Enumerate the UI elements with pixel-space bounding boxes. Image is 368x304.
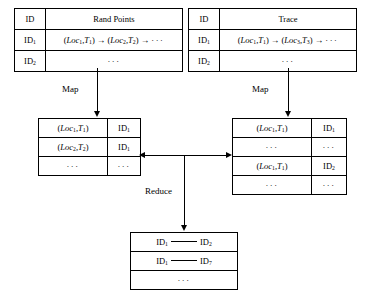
map-right-arrowhead xyxy=(285,111,291,117)
cell-value-ellipsis: ··· xyxy=(108,157,141,176)
cell-sequence-ellipsis: ··· xyxy=(46,51,183,72)
header-cell-id: ID xyxy=(189,9,220,30)
cell-value-id2: ID2 xyxy=(312,157,347,176)
cell-key-ellipsis-b: ··· xyxy=(233,176,312,195)
pair-connector xyxy=(171,260,197,261)
table-row: ··· xyxy=(131,271,238,290)
cell-id-2: ID2 xyxy=(189,51,220,72)
edge-label-map-left: Map xyxy=(62,84,79,94)
header-cell-id: ID xyxy=(15,9,46,30)
table-row: ID1 (Loc1,T1) → (Loc3,T3) → ··· xyxy=(189,30,357,51)
cell-id-1: ID1 xyxy=(189,30,220,51)
cell-id-1: ID1 xyxy=(15,30,46,51)
table-header-row: ID Trace xyxy=(189,9,357,30)
reduce-arrowhead xyxy=(181,225,187,231)
table-row: ID2 ··· xyxy=(15,51,183,72)
mapreduce-diagram: ID Rand Points ID1 (Loc1,T1) → (Loc2,T2)… xyxy=(0,0,368,304)
table-header-row: ID Rand Points xyxy=(15,9,183,30)
header-cell-rand-points: Rand Points xyxy=(46,9,183,30)
cell-key-ellipsis: ··· xyxy=(39,157,108,176)
map-left-arrowhead xyxy=(94,111,100,117)
map-left-connector-line xyxy=(97,68,98,112)
table-row: ··· ··· xyxy=(233,138,347,157)
edge-label-reduce: Reduce xyxy=(145,186,172,196)
cell-key-ellipsis: ··· xyxy=(233,138,312,157)
join-line-horizontal xyxy=(144,155,226,156)
reduce-connector-line xyxy=(184,155,185,226)
cell-key-loc2-t2: (Loc2,T2) xyxy=(39,138,108,157)
table-row: (Loc1,T1) ID2 xyxy=(233,157,347,176)
table-row: ID1 (Loc1,T1) → (Loc2,T2) → ··· xyxy=(15,30,183,51)
header-cell-trace: Trace xyxy=(220,9,357,30)
cell-pair-ellipsis: ··· xyxy=(131,271,238,290)
table-row: ID1ID2 xyxy=(131,233,238,252)
table-row: ID1ID7 xyxy=(131,252,238,271)
edge-label-map-right: Map xyxy=(252,84,269,94)
cell-value-id1: ID1 xyxy=(108,119,141,138)
table-map-left: (Loc1,T1) ID1 (Loc2,T2) ID1 ··· ··· xyxy=(38,118,141,176)
table-row: (Loc1,T1) ID1 xyxy=(233,119,347,138)
cell-key-loc1-t1: (Loc1,T1) xyxy=(39,119,108,138)
map-right-connector-line xyxy=(288,68,289,112)
join-arrowhead-left xyxy=(139,152,145,158)
cell-sequence-1: (Loc1,T1) → (Loc3,T3) → ··· xyxy=(220,30,357,51)
table-row: ID2 ··· xyxy=(189,51,357,72)
table-row: (Loc2,T2) ID1 xyxy=(39,138,141,157)
table-reduce-output: ID1ID2 ID1ID7 ··· xyxy=(130,232,238,290)
cell-value-ellipsis: ··· xyxy=(312,138,347,157)
table-row: ··· ··· xyxy=(39,157,141,176)
cell-value-id1: ID1 xyxy=(108,138,141,157)
cell-pair-id1-id7: ID1ID7 xyxy=(131,252,238,271)
table-map-right: (Loc1,T1) ID1 ··· ··· (Loc1,T1) ID2 ··· … xyxy=(232,118,347,195)
cell-id-2: ID2 xyxy=(15,51,46,72)
table-row: (Loc1,T1) ID1 xyxy=(39,119,141,138)
cell-value-id1: ID1 xyxy=(312,119,347,138)
pair-connector xyxy=(171,241,197,242)
cell-sequence-1: (Loc1,T1) → (Loc2,T2) → ··· xyxy=(46,30,183,51)
cell-value-ellipsis-b: ··· xyxy=(312,176,347,195)
join-arrowhead-right xyxy=(226,152,232,158)
cell-pair-id1-id2: ID1ID2 xyxy=(131,233,238,252)
table-row: ··· ··· xyxy=(233,176,347,195)
cell-key-loc1-t1-b: (Loc1,T1) xyxy=(233,157,312,176)
table-trace: ID Trace ID1 (Loc1,T1) → (Loc3,T3) → ···… xyxy=(188,8,357,72)
cell-key-loc1-t1: (Loc1,T1) xyxy=(233,119,312,138)
table-rand-points: ID Rand Points ID1 (Loc1,T1) → (Loc2,T2)… xyxy=(14,8,183,72)
